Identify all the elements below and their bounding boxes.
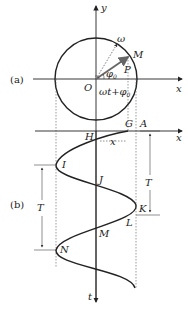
point-h-label: H [84, 131, 94, 142]
omega-label: ω [117, 33, 125, 44]
period-left-label: T [37, 202, 45, 213]
initial-phase-label: φ0 [106, 68, 117, 80]
t-axis-label: t [88, 291, 93, 302]
point-n-label: N [59, 244, 70, 255]
point-m-b-label: M [98, 228, 110, 239]
panel-b-label: (b) [10, 199, 24, 210]
origin-label: O [84, 82, 92, 93]
point-p-label: P [123, 64, 131, 75]
x-axis-a-label: x [176, 83, 182, 94]
y-axis-label: y [100, 2, 107, 13]
phase-expression-label: ωt+φ0 [99, 86, 131, 98]
period-right-label: T [145, 177, 153, 188]
point-g-label: G [125, 118, 133, 129]
point-k-label: K [138, 203, 147, 214]
point-l-label: L [125, 217, 133, 228]
panel-b-displacement-curve: (b) x t G A H I J K L M N x T T [10, 118, 182, 302]
displacement-label: x [110, 136, 116, 147]
point-a-label: A [139, 118, 147, 129]
point-i-label: I [61, 159, 67, 170]
point-j-label: J [97, 174, 104, 185]
x-axis-b-label: x [176, 132, 182, 143]
panel-a-label: (a) [10, 74, 24, 85]
phase-arc [103, 74, 104, 79]
simple-harmonic-motion-diagram: (a) y x O M P ω φ0 ωt+φ0 (b) x t G A H I… [0, 0, 188, 309]
point-m-label: M [132, 49, 144, 60]
